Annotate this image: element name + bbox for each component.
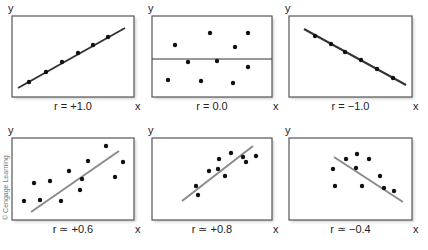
data-point — [392, 189, 396, 193]
data-point — [78, 188, 82, 192]
data-point — [382, 186, 386, 190]
data-point — [254, 154, 258, 158]
correlation-label: r ≃ +0.6 — [53, 223, 94, 235]
x-axis-label: x — [273, 100, 279, 112]
data-point — [67, 169, 71, 173]
data-point — [91, 43, 95, 47]
x-axis-label: x — [135, 100, 141, 112]
data-point — [378, 174, 382, 178]
data-point — [22, 199, 26, 203]
plot-frame — [152, 16, 272, 97]
data-point — [38, 198, 42, 202]
data-point — [215, 59, 219, 63]
scatter-panel: yxr = −1.0 — [285, 2, 419, 112]
plot-frame — [289, 138, 412, 220]
correlation-label: r = −1.0 — [332, 100, 370, 112]
x-axis-label: x — [413, 223, 419, 235]
scatter-panel: yxr = 0.0 — [148, 2, 279, 112]
data-point — [354, 166, 358, 170]
data-point — [391, 76, 395, 80]
data-point — [223, 174, 227, 178]
y-axis-label: y — [148, 124, 154, 136]
data-point — [60, 60, 64, 64]
data-point — [367, 157, 371, 161]
correlation-label: r = 0.0 — [196, 100, 228, 112]
x-axis-label: x — [135, 223, 141, 235]
scatter-panel: yxr ≃ −0.4 — [285, 124, 419, 235]
plot-frame — [289, 16, 412, 97]
data-point — [194, 184, 198, 188]
data-point — [80, 177, 84, 181]
data-point — [375, 67, 379, 71]
data-point — [86, 159, 90, 163]
y-axis-label: y — [148, 2, 154, 14]
data-point — [186, 60, 190, 64]
correlation-label: r ≃ +0.8 — [192, 223, 233, 235]
data-point — [360, 184, 364, 188]
data-point — [113, 175, 117, 179]
data-point — [173, 43, 177, 47]
data-point — [246, 65, 250, 69]
data-point — [48, 179, 52, 183]
data-point — [166, 78, 170, 82]
data-point — [106, 35, 110, 39]
data-point — [216, 167, 220, 171]
data-point — [59, 199, 63, 203]
data-point — [333, 184, 337, 188]
data-point — [76, 51, 80, 55]
data-point — [343, 50, 347, 54]
y-axis-label: y — [285, 2, 291, 14]
scatter-panel: yxr ≃ +0.8 — [148, 124, 279, 235]
correlation-figure: yxr = +1.0yxr = 0.0yxr = −1.0yxr ≃ +0.6y… — [0, 0, 428, 250]
data-point — [229, 151, 233, 155]
data-point — [32, 181, 36, 185]
correlation-label: r ≃ −0.4 — [330, 223, 371, 235]
data-point — [233, 45, 237, 49]
data-point — [217, 157, 221, 161]
data-point — [329, 42, 333, 46]
data-point — [199, 79, 203, 83]
x-axis-label: x — [273, 223, 279, 235]
y-axis-label: y — [285, 124, 291, 136]
data-point — [359, 58, 363, 62]
data-point — [241, 155, 245, 159]
data-point — [104, 144, 108, 148]
data-point — [313, 34, 317, 38]
x-axis-label: x — [413, 100, 419, 112]
data-point — [196, 193, 200, 197]
copyright-credit: © Cengage Learning — [2, 155, 10, 220]
correlation-label: r = +1.0 — [54, 100, 92, 112]
data-point — [331, 167, 335, 171]
data-point — [27, 80, 31, 84]
data-point — [344, 157, 348, 161]
data-point — [208, 31, 212, 35]
y-axis-label: y — [8, 2, 14, 14]
data-point — [355, 152, 359, 156]
data-point — [231, 81, 235, 85]
y-axis-label: y — [8, 124, 14, 136]
scatter-panel: yxr ≃ +0.6 — [8, 124, 141, 235]
data-point — [207, 169, 211, 173]
data-point — [244, 160, 248, 164]
data-point — [44, 70, 48, 74]
data-point — [246, 31, 250, 35]
data-point — [121, 160, 125, 164]
scatter-panel: yxr = +1.0 — [8, 2, 141, 112]
